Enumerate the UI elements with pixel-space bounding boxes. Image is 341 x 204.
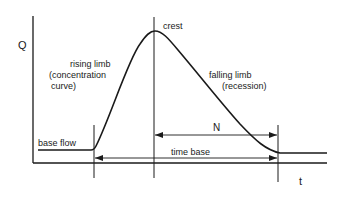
falling-limb-label: falling limb — [209, 70, 252, 80]
falling-limb-label-2: (recession) — [222, 81, 267, 91]
rising-limb-label-2: (concentration — [49, 70, 106, 80]
rising-limb-label-3: curve) — [51, 81, 76, 91]
x-axis-label: t — [299, 175, 302, 187]
hydrograph-diagram: Q t crest rising limb (concentration cur… — [0, 0, 341, 204]
time-base-label: time base — [171, 147, 210, 157]
y-axis-label: Q — [18, 39, 27, 51]
n-label: N — [213, 122, 220, 133]
base-flow-label: base flow — [38, 138, 77, 148]
rising-limb-label: rising limb — [70, 59, 111, 69]
crest-label: crest — [163, 21, 183, 31]
